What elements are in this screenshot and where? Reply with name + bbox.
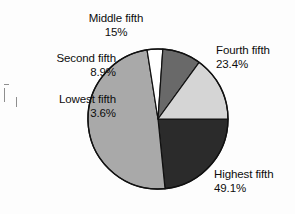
page-edge-fragment bbox=[4, 84, 9, 85]
slice-label-lowest-fifth-value: 3.6% bbox=[6, 107, 116, 121]
slice-label-highest-fifth: Highest fifth 49.1% bbox=[214, 168, 294, 195]
slice-label-middle-fifth-name: Middle fifth bbox=[89, 12, 143, 24]
slice-label-second-fifth-value: 8.9% bbox=[12, 66, 116, 80]
slice-label-middle-fifth: Middle fifth 15% bbox=[64, 12, 168, 39]
slice-label-second-fifth-name: Second fifth bbox=[56, 52, 116, 64]
slice-label-lowest-fifth: Lowest fifth 3.6% bbox=[6, 93, 116, 120]
pie-chart-figure: Middle fifth 15% Fourth fifth 23.4% Seco… bbox=[0, 0, 295, 214]
page-edge-fragment bbox=[16, 97, 17, 107]
page-edge-fragment bbox=[4, 88, 5, 102]
slice-label-lowest-fifth-name: Lowest fifth bbox=[59, 93, 116, 105]
slice-label-fourth-fifth-value: 23.4% bbox=[216, 58, 294, 72]
slice-label-fourth-fifth-name: Fourth fifth bbox=[216, 44, 270, 56]
slice-label-highest-fifth-name: Highest fifth bbox=[214, 168, 273, 180]
slice-label-fourth-fifth: Fourth fifth 23.4% bbox=[216, 44, 294, 71]
slice-label-second-fifth: Second fifth 8.9% bbox=[12, 52, 116, 79]
slice-label-middle-fifth-value: 15% bbox=[64, 26, 168, 40]
slice-label-highest-fifth-value: 49.1% bbox=[214, 182, 294, 196]
